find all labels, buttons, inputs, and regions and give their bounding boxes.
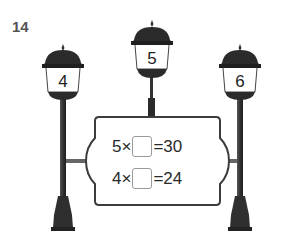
equals-sign: =	[153, 169, 163, 189]
equation-1-result: 30	[163, 137, 182, 157]
answer-blank-2[interactable]	[132, 168, 152, 189]
equation-2-result: 24	[163, 169, 182, 189]
multiply-sign: ×	[121, 137, 131, 157]
equation-2-factor: 4	[112, 169, 121, 189]
equals-sign: =	[153, 137, 163, 157]
answer-blank-1[interactable]	[132, 136, 152, 157]
equation-row-2: 4 × = 24	[112, 168, 182, 189]
lamp-label-right: 6	[230, 72, 250, 92]
equation-row-1: 5 × = 30	[112, 136, 182, 157]
lamp-label-middle: 5	[142, 49, 162, 69]
multiply-sign: ×	[121, 169, 131, 189]
lamp-scene	[0, 0, 283, 240]
equation-board	[86, 117, 229, 205]
lamp-label-left: 4	[53, 72, 73, 92]
equation-1-factor: 5	[112, 137, 121, 157]
